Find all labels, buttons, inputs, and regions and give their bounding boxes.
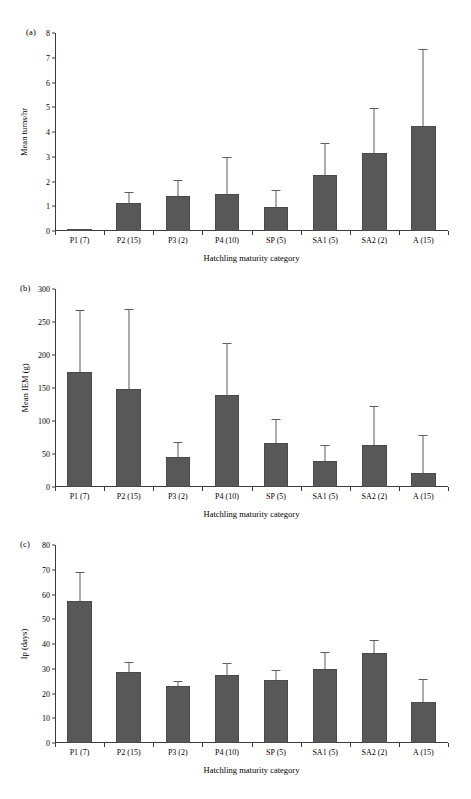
bar — [411, 126, 436, 231]
panel-c-x-tickmark — [301, 743, 302, 747]
panel-a: (a) Mean turns/hr 012345678 P1 (7)P2 (15… — [0, 22, 471, 272]
panel-c-x-tickmark — [153, 743, 154, 747]
panel-b-y-tickmark — [52, 355, 55, 356]
panel-b-x-tickmark — [252, 487, 253, 491]
panel-b-y-tickmark — [52, 322, 55, 323]
bar-slot — [350, 33, 399, 231]
error-bar-line — [374, 407, 375, 445]
x-tick-label: P3 (2) — [153, 748, 202, 757]
panel-b-x-tickmark — [448, 487, 449, 491]
panel-c-y-tickmark — [52, 594, 55, 595]
panel-b-x-tickmark — [153, 487, 154, 491]
bar-slot — [153, 33, 202, 231]
panel-b-x-tickmark — [350, 487, 351, 491]
x-tick-label: A (15) — [399, 492, 448, 501]
panel-b-x-tickmark — [55, 487, 56, 491]
panel-b-x-tickmark — [399, 487, 400, 491]
panel-c-y-tickmark — [52, 693, 55, 694]
panel-a-y-tickmark — [52, 156, 55, 157]
error-bar-cap — [272, 190, 281, 191]
panel-a-x-tick-labels: P1 (7)P2 (15)P3 (2)P4 (10)SP (5)SA1 (5)S… — [55, 236, 448, 245]
x-tick-label: P3 (2) — [153, 492, 202, 501]
panel-c-x-tickmark — [202, 743, 203, 747]
bar — [362, 153, 387, 231]
panel-c-y-tickmark — [52, 668, 55, 669]
error-bar-cap — [272, 670, 281, 671]
x-tick-label: SA1 (5) — [301, 748, 350, 757]
bar — [362, 445, 387, 487]
bar — [411, 702, 436, 743]
error-bar-cap — [419, 49, 428, 50]
error-bar-cap — [370, 640, 379, 641]
bar — [264, 680, 289, 743]
error-bar-line — [128, 310, 129, 389]
error-bar-line — [374, 641, 375, 653]
error-bar-cap — [370, 108, 379, 109]
panel-a-x-tickmark — [301, 231, 302, 235]
panel-c-x-tickmark — [448, 743, 449, 747]
bar — [362, 653, 387, 743]
error-bar-cap — [173, 180, 182, 181]
bar-slot — [55, 289, 104, 487]
bar-slot — [153, 545, 202, 743]
x-tick-label: P4 (10) — [202, 492, 251, 501]
panel-c: (c) Ip (days) 01020304050607080 P1 (7)P2… — [0, 534, 471, 792]
bar-slot — [104, 33, 153, 231]
bar — [411, 473, 436, 487]
panel-a-y-tickmark — [52, 82, 55, 83]
panel-a-x-tickmark — [104, 231, 105, 235]
panel-c-y-axis-label: Ip (days) — [19, 629, 29, 659]
panel-c-y-tickmark — [52, 619, 55, 620]
panel-a-y-tickmark — [52, 33, 55, 34]
error-bar-line — [79, 573, 80, 600]
error-bar-line — [128, 663, 129, 672]
panel-b-x-tickmark — [104, 487, 105, 491]
x-tick-label: P4 (10) — [202, 236, 251, 245]
panel-a-x-axis-title: Hatchling maturity category — [55, 253, 448, 263]
panel-a-y-tickmark — [52, 132, 55, 133]
bar — [313, 461, 338, 487]
bar — [166, 686, 191, 743]
error-bar-line — [276, 191, 277, 207]
bar-slot — [252, 33, 301, 231]
bar-slot — [55, 33, 104, 231]
x-tick-label: P2 (15) — [104, 748, 153, 757]
panel-a-x-tickmark — [55, 231, 56, 235]
error-bar-cap — [222, 663, 231, 664]
panel-c-bar-group — [55, 545, 448, 743]
error-bar-line — [276, 671, 277, 679]
error-bar-line — [226, 344, 227, 394]
bar-slot — [301, 289, 350, 487]
x-tick-label: SP (5) — [252, 492, 301, 501]
bar — [116, 672, 141, 743]
panel-a-y-tickmark — [52, 181, 55, 182]
x-tick-label: P1 (7) — [55, 236, 104, 245]
error-bar-line — [374, 109, 375, 153]
error-bar-cap — [124, 309, 133, 310]
panel-c-plot-area: 01020304050607080 — [55, 545, 448, 743]
error-bar-line — [276, 420, 277, 443]
panel-a-y-tickmark — [52, 206, 55, 207]
panel-c-x-tickmark — [55, 743, 56, 747]
bar — [313, 669, 338, 743]
panel-c-y-tickmark — [52, 718, 55, 719]
error-bar-line — [226, 158, 227, 194]
bar-slot — [202, 33, 251, 231]
x-tick-label: P2 (15) — [104, 236, 153, 245]
error-bar-cap — [124, 662, 133, 663]
bar — [166, 196, 191, 231]
panel-a-x-tickmark — [202, 231, 203, 235]
panel-a-x-tickmark — [448, 231, 449, 235]
bar — [116, 389, 141, 487]
error-bar-cap — [222, 157, 231, 158]
x-tick-label: A (15) — [399, 748, 448, 757]
x-tick-label: SA2 (2) — [350, 748, 399, 757]
error-bar-line — [177, 181, 178, 196]
panel-c-x-axis-title: Hatchling maturity category — [55, 765, 448, 775]
panel-b-x-tickmark — [202, 487, 203, 491]
x-tick-label: SA1 (5) — [301, 236, 350, 245]
panel-b-bar-group — [55, 289, 448, 487]
error-bar-line — [423, 50, 424, 126]
panel-a-x-tickmark — [350, 231, 351, 235]
bar-slot — [399, 289, 448, 487]
